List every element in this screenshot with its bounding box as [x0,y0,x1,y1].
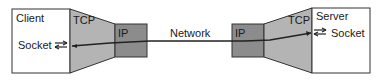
tcp-ip-diagram: Client Socket TCP IP IP TCP [0,0,378,82]
left-ip-label: IP [118,27,128,39]
right-tcp-label: TCP [288,14,310,26]
right-ip-label: IP [235,27,245,39]
server-box: Server Socket [312,8,370,73]
server-label: Server [316,10,349,22]
network-label: Network [170,27,211,39]
left-ip-layer: IP [115,24,147,57]
client-box: Client Socket [12,9,70,73]
client-label: Client [16,12,44,24]
client-socket-label: Socket [18,39,52,51]
server-socket-label: Socket [331,27,365,39]
left-tcp-label: TCP [73,14,95,26]
left-tcp-layer: TCP [70,9,115,73]
